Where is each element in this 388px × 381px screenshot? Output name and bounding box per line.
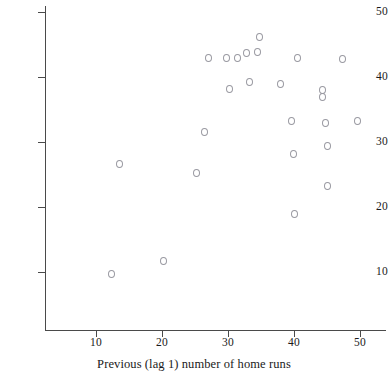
scatter-point	[322, 119, 329, 127]
y-axis-tick-label: 50	[361, 6, 388, 18]
scatter-point	[294, 54, 301, 62]
scatter-point	[256, 33, 263, 41]
scatter-point	[324, 182, 331, 190]
scatter-point	[234, 54, 241, 62]
x-axis-tick-label: 40	[279, 337, 309, 349]
scatter-point	[116, 160, 123, 168]
scatter-point	[223, 54, 230, 62]
scatter-point	[108, 270, 115, 278]
y-axis-tick-label: 30	[361, 136, 388, 148]
scatter-point	[277, 80, 284, 88]
scatter-plot-figure: 1020304050 1020304050 Previous (lag 1) n…	[0, 0, 388, 381]
y-axis-tick-label: 10	[361, 266, 388, 278]
scatter-point	[246, 78, 253, 86]
scatter-point	[226, 85, 233, 93]
y-axis-tick	[38, 77, 45, 78]
y-axis-tick-label: 20	[361, 201, 388, 213]
scatter-point	[319, 93, 326, 101]
x-axis-tick-label: 10	[81, 337, 111, 349]
scatter-point	[243, 49, 250, 57]
y-axis-tick	[38, 272, 45, 273]
scatter-point	[193, 169, 200, 177]
x-axis-title: Previous (lag 1) number of home runs	[0, 357, 388, 372]
y-axis-tick	[38, 207, 45, 208]
y-axis-tick	[38, 12, 45, 13]
scatter-point	[205, 54, 212, 62]
scatter-point	[160, 257, 167, 265]
scatter-point	[324, 142, 331, 150]
scatter-point	[201, 128, 208, 136]
x-axis-tick-label: 20	[147, 337, 177, 349]
x-axis-tick-label: 30	[213, 337, 243, 349]
y-axis-tick-label: 40	[361, 71, 388, 83]
y-axis-line	[45, 6, 46, 330]
scatter-point	[291, 210, 298, 218]
scatter-point	[288, 117, 295, 125]
scatter-point	[354, 117, 361, 125]
y-axis-tick	[38, 142, 45, 143]
x-axis-tick-label: 50	[345, 337, 375, 349]
scatter-point	[339, 55, 346, 63]
scatter-point	[254, 48, 261, 56]
scatter-point	[290, 150, 297, 158]
